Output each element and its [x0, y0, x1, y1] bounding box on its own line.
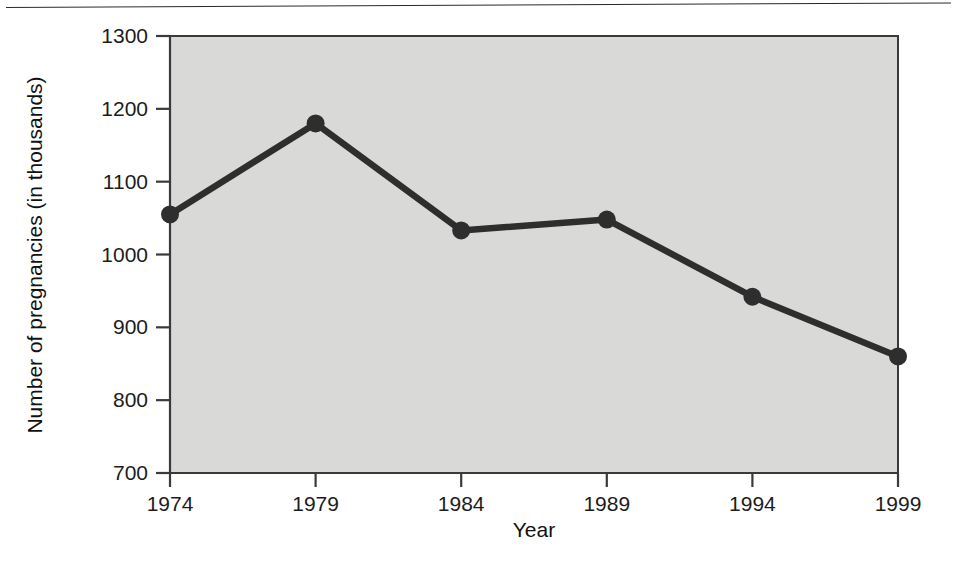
data-point-marker: [889, 347, 907, 365]
y-axis-title: Number of pregnancies (in thousands): [23, 76, 46, 433]
x-axis-title: Year: [513, 518, 555, 541]
y-axis-ticks: [156, 36, 170, 473]
data-point-marker: [598, 211, 616, 229]
x-axis-tick-label: 1979: [292, 492, 339, 515]
x-axis-tick-label: 1989: [583, 492, 630, 515]
y-axis-tick-label: 1200: [101, 97, 148, 120]
y-axis-tick-labels: 7008009001000110012001300: [101, 24, 148, 484]
data-point-marker: [307, 114, 325, 132]
y-axis-tick-label: 800: [113, 388, 148, 411]
data-point-marker: [161, 205, 179, 223]
y-axis-tick-label: 1100: [103, 170, 148, 193]
data-point-marker: [452, 221, 470, 239]
x-axis-tick-label: 1974: [147, 492, 194, 515]
x-axis-tick-labels: 197419791984198919941999: [147, 492, 922, 515]
y-axis-tick-label: 700: [113, 461, 148, 484]
figure-container: 7008009001000110012001300 19741979198419…: [0, 0, 959, 567]
x-axis-tick-label: 1999: [875, 492, 922, 515]
line-chart: 7008009001000110012001300 19741979198419…: [0, 0, 959, 567]
y-axis-tick-label: 1000: [101, 243, 148, 266]
plot-area-background: [170, 36, 898, 473]
x-axis-tick-label: 1994: [729, 492, 776, 515]
x-axis-tick-label: 1984: [438, 492, 485, 515]
y-axis-tick-label: 900: [113, 315, 148, 338]
y-axis-tick-label: 1300: [101, 24, 148, 47]
x-axis-ticks: [170, 473, 898, 487]
data-point-marker: [743, 288, 761, 306]
